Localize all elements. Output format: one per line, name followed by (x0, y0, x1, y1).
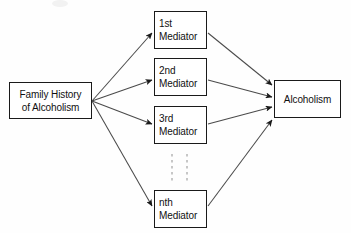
edge-mediator-n-to-outcome (208, 120, 272, 206)
node-mediator-1-line-2: Mediator (155, 30, 206, 43)
node-mediator-3-line-2: Mediator (155, 125, 206, 138)
node-mediator-n-line-2: Mediator (155, 209, 206, 222)
node-mediator-3[interactable]: 3rd Mediator (154, 106, 207, 144)
scan-artifact (52, 0, 68, 7)
edge-family-to-mediator-3 (92, 101, 152, 124)
node-mediator-1-line-1: 1st (155, 17, 206, 30)
node-alcoholism-outcome-label: Alcoholism (275, 93, 340, 106)
node-family-history-line-2: of Alcoholism (10, 101, 91, 114)
node-mediator-3-line-1: 3rd (155, 112, 206, 125)
node-alcoholism-outcome[interactable]: Alcoholism (274, 80, 341, 118)
node-family-history[interactable]: Family History of Alcoholism (9, 82, 92, 119)
edge-mediator-1-to-outcome (208, 33, 272, 85)
node-mediator-2-line-2: Mediator (155, 77, 206, 90)
diagram-canvas: Family History of Alcoholism 1st Mediato… (0, 0, 351, 233)
node-mediator-n-line-1: nth (155, 196, 206, 209)
node-mediator-1[interactable]: 1st Mediator (154, 11, 207, 49)
edge-mediator-2-to-outcome (208, 80, 272, 97)
edge-family-to-mediator-n (92, 101, 152, 206)
node-family-history-line-1: Family History (10, 88, 91, 101)
node-mediator-n[interactable]: nth Mediator (154, 190, 207, 228)
node-mediator-2-line-1: 2nd (155, 64, 206, 77)
edge-mediator-3-to-outcome (208, 107, 272, 124)
node-mediator-2[interactable]: 2nd Mediator (154, 58, 207, 96)
